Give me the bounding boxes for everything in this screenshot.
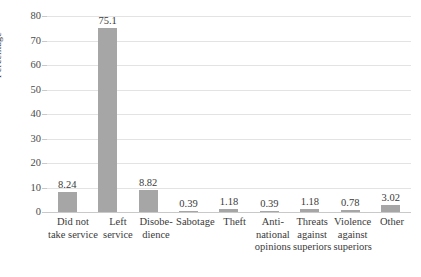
bar-slot: 1.18 <box>290 16 330 212</box>
x-axis-label: Sabotage <box>175 216 216 254</box>
y-tick-label-80: 80 <box>0 11 41 21</box>
bar[interactable] <box>219 209 238 212</box>
bar-slot: 0.78 <box>330 16 370 212</box>
x-axis-label: Theft <box>216 216 254 254</box>
bar[interactable] <box>381 205 400 212</box>
x-axis-label-line: superiors <box>293 241 332 254</box>
bar-slot: 75.1 <box>87 16 127 212</box>
x-axis-label-line: Disobe- <box>138 216 174 229</box>
bar[interactable] <box>58 192 77 212</box>
x-axis-label: Violenceagainstsuperiors <box>332 216 373 254</box>
x-axis-label-line: Left <box>100 216 136 229</box>
bar-value-label: 75.1 <box>98 15 116 26</box>
y-tick-label-40: 40 <box>0 109 41 119</box>
bar-value-label: 0.78 <box>341 197 359 208</box>
x-axis-label-line: Violence <box>333 216 372 229</box>
x-axis-label: Anti-nationalopinions <box>254 216 292 254</box>
y-tick-label-70: 70 <box>0 36 41 46</box>
x-axis-label-line: Threats <box>293 216 332 229</box>
x-axis-label-line: Did not <box>48 216 98 229</box>
y-tick-label-60: 60 <box>0 60 41 70</box>
bar-value-label: 0.39 <box>179 198 197 209</box>
bar-value-label: 0.39 <box>260 198 278 209</box>
x-axis-label-line: superiors <box>333 241 372 254</box>
bar[interactable] <box>300 209 319 212</box>
bar-value-label: 8.24 <box>58 179 76 190</box>
bar-value-label: 1.18 <box>301 196 319 207</box>
x-axis-label-line: against <box>293 229 332 242</box>
bar[interactable] <box>260 211 279 212</box>
bar-slot: 1.18 <box>209 16 249 212</box>
bar-slot: 8.82 <box>128 16 168 212</box>
x-axis-label: Disobe-dience <box>137 216 175 254</box>
x-axis-label-line: Theft <box>217 216 253 229</box>
x-axis-label: Threatsagainstsuperiors <box>292 216 333 254</box>
x-axis-label-line: Anti- <box>255 216 291 229</box>
x-axis-label: Other <box>373 216 411 254</box>
x-axis-label-line: Other <box>374 216 410 229</box>
x-axis-label-line: Sabotage <box>176 216 215 229</box>
bar-chart: Percentage 80706050403020100 8.2475.18.8… <box>0 0 421 277</box>
plot-area: 8.2475.18.820.391.180.391.180.783.02 <box>47 16 411 212</box>
x-axis-label-line: opinions <box>255 241 291 254</box>
y-tick-label-20: 20 <box>0 158 41 168</box>
bar-value-label: 8.82 <box>139 177 157 188</box>
bar-value-label: 1.18 <box>220 196 238 207</box>
y-tick-label-30: 30 <box>0 134 41 144</box>
y-tick-label-50: 50 <box>0 85 41 95</box>
bar-series: 8.2475.18.820.391.180.391.180.783.02 <box>47 16 411 212</box>
x-axis-category-labels: Did nottake serviceLeftserviceDisobe-die… <box>47 216 411 254</box>
bar[interactable] <box>179 211 198 212</box>
y-tick-label-0: 0 <box>0 207 41 217</box>
x-axis-label-line: take service <box>48 229 98 242</box>
x-axis-label-line: national <box>255 229 291 242</box>
bar[interactable] <box>139 190 158 212</box>
x-axis-label-line: dience <box>138 229 174 242</box>
x-axis-label-line: service <box>100 229 136 242</box>
bar[interactable] <box>98 28 117 212</box>
gridline-0 <box>47 212 411 213</box>
bar-value-label: 3.02 <box>382 192 400 203</box>
bar-slot: 0.39 <box>168 16 208 212</box>
x-axis-label-line: against <box>333 229 372 242</box>
bar-slot: 0.39 <box>249 16 289 212</box>
x-axis-label: Did nottake service <box>47 216 99 254</box>
bar-slot: 8.24 <box>47 16 87 212</box>
bar-slot: 3.02 <box>371 16 411 212</box>
bar[interactable] <box>341 210 360 212</box>
y-tick-label-10: 10 <box>0 183 41 193</box>
x-axis-label: Leftservice <box>99 216 137 254</box>
